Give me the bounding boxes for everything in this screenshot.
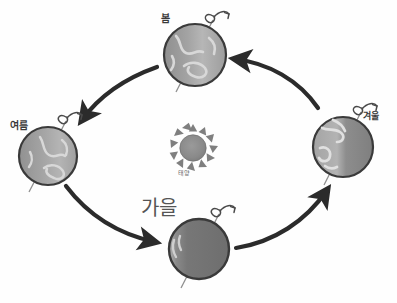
diagram-canvas bbox=[0, 0, 397, 303]
label-autumn: 가을 bbox=[141, 192, 177, 221]
rotation-symbol-spring bbox=[205, 12, 229, 23]
arrow-winter-to-spring bbox=[235, 59, 318, 108]
label-sun: 태양 bbox=[178, 168, 190, 177]
label-summer: 여름 bbox=[10, 117, 28, 132]
rotation-symbol-autumn bbox=[211, 206, 235, 217]
arrow-autumn-to-winter bbox=[236, 190, 327, 248]
label-winter: 겨울 bbox=[363, 109, 379, 122]
earth-summer bbox=[19, 113, 82, 192]
earth-autumn bbox=[169, 206, 235, 288]
rotation-symbol-summer bbox=[58, 113, 82, 124]
sun-icon bbox=[170, 123, 218, 171]
earth-spring bbox=[164, 12, 229, 92]
seasons-orbit-diagram: 봄 여름 가을 겨울 태양 bbox=[0, 0, 397, 303]
label-spring: 봄 bbox=[161, 10, 170, 25]
arrow-spring-to-summer bbox=[82, 67, 157, 120]
